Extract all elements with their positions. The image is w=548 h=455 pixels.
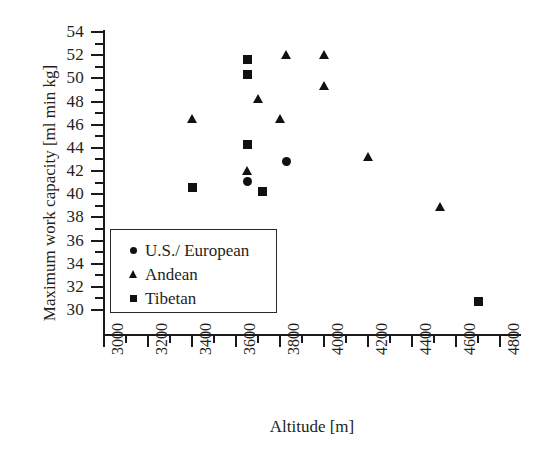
- y-tick-label: 54: [12, 23, 84, 40]
- y-tick-minor: [95, 297, 103, 299]
- x-tick-major: [455, 336, 457, 347]
- x-tick-label: 4800: [506, 323, 522, 355]
- data-point-square: [474, 297, 483, 306]
- x-tick-major: [411, 336, 413, 347]
- data-point-triangle: [363, 152, 373, 161]
- y-tick-major: [91, 124, 103, 126]
- scatter-plot: 30323436384042444648505254 3000320034003…: [0, 0, 548, 455]
- x-tick-label: 4600: [462, 323, 478, 355]
- y-tick-minor: [95, 112, 103, 114]
- y-tick-major: [91, 240, 103, 242]
- y-tick-minor: [95, 135, 103, 137]
- x-tick-major: [147, 336, 149, 347]
- y-tick-major: [91, 147, 103, 149]
- x-tick-major: [323, 336, 325, 347]
- x-tick-major: [235, 336, 237, 347]
- y-axis-line: [103, 30, 105, 336]
- circle-marker-icon: [123, 247, 143, 254]
- y-tick-major: [91, 286, 103, 288]
- y-tick-minor: [95, 182, 103, 184]
- data-point-circle: [243, 177, 252, 186]
- x-tick-minor: [213, 336, 215, 343]
- x-tick-major: [103, 336, 105, 347]
- legend: U.S./ European Andean Tibetan: [110, 229, 277, 313]
- data-point-square: [243, 140, 252, 149]
- data-point-square: [243, 55, 252, 64]
- y-tick-minor: [95, 251, 103, 253]
- x-tick-label: 3200: [154, 323, 170, 355]
- legend-item-label: Tibetan: [145, 290, 196, 307]
- y-tick-major: [91, 54, 103, 56]
- data-point-triangle: [275, 114, 285, 123]
- x-tick-minor: [345, 336, 347, 343]
- x-tick-minor: [389, 336, 391, 343]
- y-tick-minor: [95, 89, 103, 91]
- y-tick-minor: [95, 205, 103, 207]
- x-tick-label: 3400: [198, 323, 214, 355]
- x-tick-minor: [477, 336, 479, 343]
- x-tick-major: [367, 336, 369, 347]
- x-tick-minor: [125, 336, 127, 343]
- legend-item-label: U.S./ European: [145, 242, 249, 259]
- data-point-triangle: [281, 50, 291, 59]
- x-tick-minor: [257, 336, 259, 343]
- y-tick-major: [91, 216, 103, 218]
- x-tick-label: 3800: [286, 323, 302, 355]
- data-point-square: [258, 187, 267, 196]
- y-axis-title: Maximum work capacity [ml min kg]: [40, 43, 60, 343]
- x-tick-minor: [301, 336, 303, 343]
- x-tick-label: 4200: [374, 323, 390, 355]
- legend-item-label: Andean: [145, 266, 198, 283]
- x-tick-minor: [169, 336, 171, 343]
- data-point-square: [243, 70, 252, 79]
- x-tick-label: 4400: [418, 323, 434, 355]
- data-point-triangle: [187, 114, 197, 123]
- data-point-triangle: [435, 202, 445, 211]
- x-tick-label: 4000: [330, 323, 346, 355]
- y-tick-major: [91, 77, 103, 79]
- x-tick-minor: [433, 336, 435, 343]
- x-tick-major: [499, 336, 501, 347]
- y-tick-minor: [95, 274, 103, 276]
- x-tick-major: [191, 336, 193, 347]
- square-marker-icon: [123, 295, 143, 302]
- y-tick-major: [91, 31, 103, 33]
- data-point-triangle: [253, 94, 263, 103]
- x-tick-label: 3600: [242, 323, 258, 355]
- y-tick-minor: [95, 43, 103, 45]
- triangle-marker-icon: [123, 270, 143, 278]
- y-tick-major: [91, 263, 103, 265]
- y-tick-major: [91, 170, 103, 172]
- legend-item-tibetan: Tibetan: [123, 286, 276, 310]
- data-point-triangle: [319, 50, 329, 59]
- y-tick-minor: [95, 158, 103, 160]
- data-point-triangle: [319, 81, 329, 90]
- x-axis-title: Altitude [m]: [103, 417, 521, 437]
- y-tick-minor: [95, 228, 103, 230]
- data-point-triangle: [242, 166, 252, 175]
- y-tick-major: [91, 101, 103, 103]
- legend-item-andean: Andean: [123, 262, 276, 286]
- y-tick-major: [91, 309, 103, 311]
- legend-item-us-european: U.S./ European: [123, 238, 276, 262]
- x-tick-label: 3000: [110, 323, 126, 355]
- data-point-circle: [282, 157, 291, 166]
- x-tick-major: [279, 336, 281, 347]
- data-point-square: [188, 183, 197, 192]
- y-tick-minor: [95, 66, 103, 68]
- y-tick-major: [91, 193, 103, 195]
